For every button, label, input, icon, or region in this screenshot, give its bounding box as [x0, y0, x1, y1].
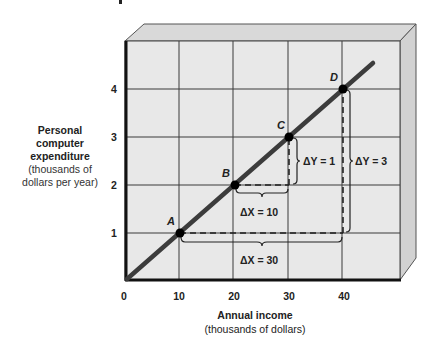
- tick-x-40: 40: [338, 290, 350, 302]
- label-a: A: [166, 215, 175, 227]
- tick-y-4: 4: [111, 83, 117, 95]
- label-c: C: [277, 119, 286, 131]
- tick-x-10: 10: [173, 290, 185, 302]
- label-b: B: [222, 167, 230, 179]
- label-d: D: [330, 71, 338, 83]
- y-sub-line-1: (thousands of: [0, 163, 120, 176]
- box-right-face: [400, 24, 416, 280]
- delta-y-1: ΔY = 1: [303, 155, 335, 167]
- tick-x-30: 30: [283, 290, 295, 302]
- tick-x-20: 20: [228, 290, 240, 302]
- delta-y-3: ΔY = 3: [355, 155, 387, 167]
- point-d: [339, 85, 348, 94]
- box-top-face: [125, 24, 416, 41]
- y-axis-title: Personal computer expenditure (thousands…: [0, 124, 120, 189]
- x-title: Annual income: [150, 308, 360, 322]
- y-title-line-1: Personal: [0, 124, 120, 137]
- y-sub-line-2: dollars per year): [0, 176, 120, 189]
- delta-x-30: ΔX = 30: [240, 254, 278, 266]
- y-title-line-3: expenditure: [0, 150, 120, 163]
- y-title-line-2: computer: [0, 137, 120, 150]
- point-a: [176, 229, 185, 238]
- tick-y-1: 1: [111, 227, 117, 239]
- point-b: [231, 181, 240, 190]
- x-sub: (thousands of dollars): [150, 322, 360, 336]
- point-c: [285, 133, 294, 142]
- tick-x-0: 0: [121, 290, 127, 302]
- delta-x-10: ΔX = 10: [240, 206, 278, 218]
- x-axis-title: Annual income (thousands of dollars): [150, 308, 360, 336]
